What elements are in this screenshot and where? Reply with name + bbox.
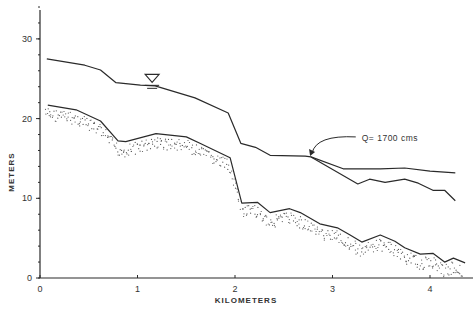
stipple-dot bbox=[425, 257, 426, 258]
stipple-dot bbox=[424, 267, 425, 268]
stipple-dot bbox=[428, 258, 429, 259]
stipple-dot bbox=[193, 153, 194, 154]
stipple-dot bbox=[370, 247, 371, 248]
stipple-dot bbox=[443, 274, 444, 275]
stipple-dot bbox=[305, 228, 306, 229]
stipple-dot bbox=[429, 265, 430, 266]
stipple-dot bbox=[242, 208, 243, 209]
stipple-dot bbox=[430, 260, 431, 261]
stipple-dot bbox=[434, 257, 435, 258]
stipple-dot bbox=[314, 228, 315, 229]
stipple-dot bbox=[176, 144, 177, 145]
stipple-dot bbox=[286, 213, 287, 214]
stipple-dot bbox=[97, 129, 98, 130]
stipple-dot bbox=[384, 244, 385, 245]
stipple-dot bbox=[371, 244, 372, 245]
x-tick-label: 4 bbox=[427, 284, 432, 294]
stipple-dot bbox=[413, 256, 414, 257]
stipple-dot bbox=[192, 154, 193, 155]
stipple-dot bbox=[93, 128, 94, 129]
stipple-dot bbox=[91, 128, 92, 129]
stipple-dot bbox=[222, 157, 223, 158]
stipple-dot bbox=[335, 232, 336, 233]
stipple-dot bbox=[144, 144, 145, 145]
stipple-dot bbox=[456, 270, 457, 271]
stipple-dot bbox=[443, 276, 444, 277]
stipple-dot bbox=[99, 126, 100, 127]
stipple-dot bbox=[254, 214, 255, 215]
stipple-dot bbox=[111, 136, 112, 137]
stipple-dot bbox=[112, 137, 113, 138]
stipple-dot bbox=[349, 247, 350, 248]
stipple-dot bbox=[257, 207, 258, 208]
stipple-dot bbox=[135, 154, 136, 155]
stipple-dot bbox=[150, 148, 151, 149]
stipple-dot bbox=[264, 216, 265, 217]
stipple-dot bbox=[161, 141, 162, 142]
stipple-dot bbox=[49, 111, 50, 112]
series-line-3 bbox=[48, 105, 465, 263]
stipple-dot bbox=[66, 118, 67, 119]
stipple-dot bbox=[166, 141, 167, 142]
stipple-dot bbox=[408, 260, 409, 261]
stipple-dot bbox=[293, 220, 294, 221]
stipple-dot bbox=[126, 152, 127, 153]
stipple-dot bbox=[385, 246, 386, 247]
stipple-dot bbox=[212, 156, 213, 157]
stipple-dot bbox=[282, 221, 283, 222]
stipple-dot bbox=[268, 223, 269, 224]
stipple-dot bbox=[107, 135, 108, 136]
stipple-dot bbox=[48, 108, 49, 109]
stipple-dot bbox=[388, 249, 389, 250]
stipple-dot bbox=[407, 254, 408, 255]
stipple-dot bbox=[260, 214, 261, 215]
stipple-dot bbox=[177, 150, 178, 151]
stipple-dot bbox=[409, 258, 410, 259]
stipple-dot bbox=[201, 147, 202, 148]
stipple-dot bbox=[297, 225, 298, 226]
series-line-2 bbox=[311, 157, 455, 201]
stipple-dot bbox=[348, 237, 349, 238]
stipple-dot bbox=[177, 141, 178, 142]
stipple-dot bbox=[235, 188, 236, 189]
stipple-dot bbox=[229, 172, 230, 173]
stipple-dot bbox=[317, 226, 318, 227]
stipple-dot bbox=[80, 118, 81, 119]
stipple-dot bbox=[61, 112, 62, 113]
stipple-dot bbox=[304, 225, 305, 226]
stipple-dot bbox=[321, 231, 322, 232]
stipple-dot bbox=[303, 227, 304, 228]
stipple-dot bbox=[180, 146, 181, 147]
stipple-dot bbox=[206, 155, 207, 156]
stipple-dot bbox=[345, 242, 346, 243]
stipple-dot bbox=[251, 208, 252, 209]
stipple-dot bbox=[274, 225, 275, 226]
stipple-dot bbox=[289, 223, 290, 224]
stipple-dot bbox=[324, 240, 325, 241]
stipple-dot bbox=[157, 147, 158, 148]
stipple-dot bbox=[362, 247, 363, 248]
stipple-dot bbox=[315, 234, 316, 235]
stipple-dot bbox=[383, 245, 384, 246]
stipple-dot bbox=[238, 201, 239, 202]
stipple-dot bbox=[324, 238, 325, 239]
stipple-dot bbox=[435, 259, 436, 260]
stipple-dot bbox=[168, 144, 169, 145]
stipple-dot bbox=[70, 120, 71, 121]
stipple-dot bbox=[308, 229, 309, 230]
stipple-dot bbox=[79, 125, 80, 126]
stipple-dot bbox=[151, 139, 152, 140]
stipple-dot bbox=[446, 264, 447, 265]
stipple-dot bbox=[375, 248, 376, 249]
stipple-dot bbox=[70, 112, 71, 113]
stipple-dot bbox=[128, 150, 129, 151]
stipple-dot bbox=[266, 216, 267, 217]
stipple-dot bbox=[49, 115, 50, 116]
stipple-dot bbox=[226, 158, 227, 159]
stipple-dot bbox=[338, 235, 339, 236]
stipple-dot bbox=[233, 185, 234, 186]
stipple-dot bbox=[366, 247, 367, 248]
stipple-dot bbox=[334, 233, 335, 234]
stipple-dot bbox=[87, 125, 88, 126]
stipple-dot bbox=[221, 157, 222, 158]
